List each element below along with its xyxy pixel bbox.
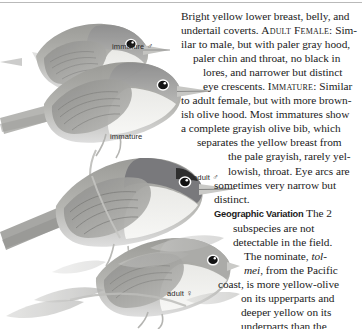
- species-account-text: Bright yellow lower breast, belly, and u…: [181, 9, 362, 329]
- label-immature-text: immature: [110, 132, 142, 141]
- text-line: lores, and narrower but distinct: [203, 65, 362, 79]
- male-symbol-icon: ♂: [147, 41, 154, 51]
- text-line: to adult female, but with more brown-: [181, 93, 362, 107]
- text-line: paler chin and throat, no black in: [193, 51, 362, 65]
- text-line: separates the yellow breast from: [197, 135, 362, 149]
- text-line: mei, from the Pacific: [244, 263, 362, 277]
- text-line: sometimes very narrow but: [214, 178, 362, 192]
- text-line: Bright yellow lower breast, belly, and: [181, 9, 362, 23]
- label-immature-male-text: immature: [112, 42, 144, 51]
- label-immature-male: immature ♂: [112, 41, 153, 51]
- bird-immature: [0, 62, 211, 176]
- text-line: distinct.: [214, 192, 362, 206]
- text-line: coast, is more yellow-olive: [218, 277, 362, 291]
- text-line: eye crescents. Immature: Similar: [203, 79, 362, 93]
- label-immature: immature: [110, 131, 142, 141]
- text-line: subspecies are not: [233, 221, 362, 235]
- field-guide-page: immature ♂ immature adult ♂ adult ♀ Brig…: [0, 0, 362, 329]
- geographic-variation-line: Geographic Variation The 2: [214, 206, 362, 221]
- geographic-variation-trailing: The 2: [306, 207, 332, 219]
- text-line: the pale grayish, rarely yel-: [228, 149, 362, 163]
- text-line: on its upperparts and: [241, 291, 362, 305]
- text-line: ish olive hood. Most immatures show: [181, 107, 362, 121]
- text-line: undertail coverts. Adult Female: Sim-: [181, 23, 362, 37]
- text-line: detectable in the field.: [233, 235, 362, 249]
- text-line: a complete grayish olive bib, which: [181, 121, 362, 135]
- text-line: The nominate, tol-: [244, 249, 362, 263]
- text-line: lowish, throat. Eye arcs are: [228, 164, 362, 178]
- text-line: deeper yellow on its: [241, 305, 362, 319]
- pointer-mark: [0, 58, 22, 66]
- text-line: ilar to male, but with paler gray hood,: [181, 37, 362, 51]
- geographic-variation-heading: Geographic Variation: [214, 209, 304, 219]
- text-line: underparts than the: [241, 319, 362, 329]
